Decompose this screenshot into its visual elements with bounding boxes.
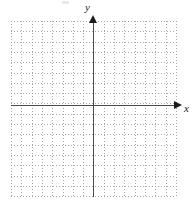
grid-line-vertical: [176, 21, 177, 197]
x-axis-label: x: [184, 103, 189, 114]
coordinate-plane-figure: x y: [0, 0, 194, 203]
x-axis-arrow-icon: [174, 101, 182, 109]
scan-artifact: [62, 1, 69, 4]
y-axis-label: y: [85, 2, 90, 13]
y-axis-arrow-icon: [89, 15, 97, 23]
x-axis-line: [11, 105, 178, 106]
y-axis-line: [93, 21, 94, 197]
